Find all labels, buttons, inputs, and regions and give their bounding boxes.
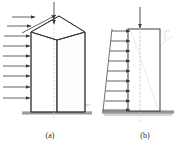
panel-a — [3, 2, 92, 120]
panel-a-pressure-arrows — [3, 17, 35, 98]
panel-a-caption: (a) — [30, 131, 70, 140]
panel-b — [102, 7, 174, 122]
panel-b-right-detail — [162, 31, 172, 44]
panel-b-column — [128, 29, 160, 111]
panel-a-block — [31, 16, 85, 112]
panel-b-pressure-envelope — [103, 29, 112, 111]
panel-b-caption: (b) — [125, 131, 165, 140]
